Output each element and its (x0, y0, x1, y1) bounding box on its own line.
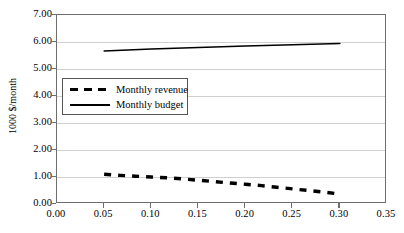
x-tick-label: 0.00 (36, 209, 76, 220)
x-tick-label: 0.15 (177, 209, 217, 220)
chart-legend: Monthly revenue Monthly budget (62, 78, 188, 115)
x-tick-label: 0.25 (272, 209, 312, 220)
legend-label-monthly-budget: Monthly budget (112, 99, 183, 110)
series-monthly-budget (104, 44, 340, 51)
gridline (57, 150, 385, 151)
x-tick-mark (291, 203, 292, 208)
x-tick-mark (338, 203, 339, 208)
y-tick-label: 4.00 (6, 90, 52, 101)
legend-label-monthly-revenue: Monthly revenue (112, 84, 188, 95)
x-tick-mark (244, 203, 245, 208)
y-axis-labels: 0.001.002.003.004.005.006.007.00 (0, 0, 52, 233)
x-tick-label: 0.05 (83, 209, 123, 220)
x-tick-label: 0.20 (225, 209, 265, 220)
y-tick-label: 1.00 (6, 171, 52, 182)
x-tick-mark (103, 203, 104, 208)
y-tick-label: 3.00 (6, 117, 52, 128)
x-tick-mark (150, 203, 151, 208)
x-tick-label: 0.30 (319, 209, 359, 220)
x-tick-mark (197, 203, 198, 208)
gridline (57, 69, 385, 70)
gridline (57, 177, 385, 178)
x-tick-label: 0.10 (130, 209, 170, 220)
y-tick-label: 0.00 (6, 198, 52, 209)
y-tick-label: 6.00 (6, 36, 52, 47)
gridline (57, 42, 385, 43)
x-tick-label: 0.35 (366, 209, 404, 220)
y-tick-label: 5.00 (6, 63, 52, 74)
gridline (57, 123, 385, 124)
legend-key-dashed (68, 84, 112, 95)
legend-item-monthly-budget: Monthly budget (68, 97, 182, 112)
legend-item-monthly-revenue: Monthly revenue (68, 82, 182, 97)
y-tick-label: 7.00 (6, 9, 52, 20)
chart-container: 1000 $/month 0.001.002.003.004.005.006.0… (0, 0, 404, 233)
y-tick-label: 2.00 (6, 144, 52, 155)
legend-key-solid (68, 99, 112, 110)
